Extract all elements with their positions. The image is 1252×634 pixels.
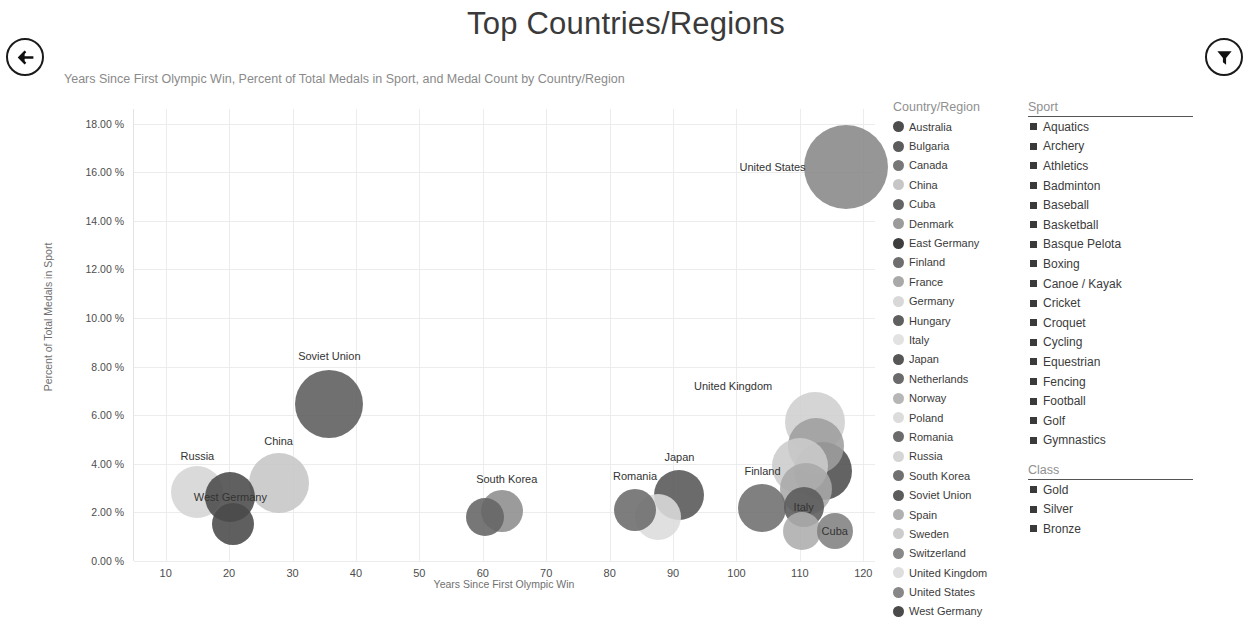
legend-swatch-square-icon — [1030, 398, 1037, 405]
legend-item-label: Bronze — [1043, 522, 1081, 536]
legend-item-country[interactable]: Italy — [893, 330, 1013, 349]
legend-item-country[interactable]: Hungary — [893, 311, 1013, 330]
legend-item-label: Boxing — [1043, 257, 1080, 271]
legend-item-country[interactable]: China — [893, 175, 1013, 194]
legend-swatch-square-icon — [1030, 417, 1037, 424]
legend-swatch-circle-icon — [893, 567, 904, 578]
back-button[interactable] — [6, 38, 44, 76]
legend-item-country[interactable]: Norway — [893, 388, 1013, 407]
legend-swatch-square-icon — [1030, 143, 1037, 150]
legend-item-sport[interactable]: Badminton — [1028, 176, 1193, 196]
legend-item-country[interactable]: United States — [893, 582, 1013, 601]
legend-item-label: Germany — [909, 295, 954, 307]
bubble-point[interactable] — [295, 370, 363, 438]
legend-item-sport[interactable]: Archery — [1028, 137, 1193, 157]
legend-item-country[interactable]: East Germany — [893, 233, 1013, 252]
legend-item-class[interactable]: Bronze — [1028, 519, 1193, 539]
legend-item-sport[interactable]: Cycling — [1028, 333, 1193, 353]
legend-item-class[interactable]: Silver — [1028, 500, 1193, 520]
legend-swatch-square-icon — [1030, 525, 1037, 532]
gridline-vertical — [356, 109, 357, 561]
legend-swatch-square-icon — [1030, 506, 1037, 513]
legend-item-country[interactable]: Canada — [893, 156, 1013, 175]
legend-swatch-circle-icon — [893, 179, 904, 190]
legend-item-country[interactable]: Finland — [893, 253, 1013, 272]
legend-item-sport[interactable]: Fencing — [1028, 372, 1193, 392]
legend-item-label: Romania — [909, 431, 953, 443]
legend-item-country[interactable]: West Germany — [893, 602, 1013, 621]
legend-item-label: Cuba — [909, 198, 935, 210]
bubble-point[interactable] — [614, 489, 656, 531]
legend-item-sport[interactable]: Baseball — [1028, 195, 1193, 215]
legend-item-sport[interactable]: Aquatics — [1028, 117, 1193, 137]
legend-item-country[interactable]: Japan — [893, 350, 1013, 369]
x-axis-tick-label: 80 — [604, 567, 616, 579]
legend-item-sport[interactable]: Cricket — [1028, 293, 1193, 313]
legend-swatch-circle-icon — [893, 509, 904, 520]
legend-item-country[interactable]: Romania — [893, 427, 1013, 446]
legend-class-items: GoldSilverBronze — [1028, 480, 1193, 539]
x-axis-tick-label: 90 — [667, 567, 679, 579]
legend-item-country[interactable]: Russia — [893, 447, 1013, 466]
legend-item-country[interactable]: South Korea — [893, 466, 1013, 485]
legend-item-class[interactable]: Gold — [1028, 480, 1193, 500]
filter-funnel-icon — [1215, 48, 1234, 67]
legend-item-country[interactable]: Australia — [893, 117, 1013, 136]
gridline-horizontal — [134, 172, 875, 173]
legend-swatch-circle-icon — [893, 276, 904, 287]
y-axis-tick-label: 2.00 % — [4, 506, 124, 518]
legend-item-label: Cricket — [1043, 296, 1080, 310]
legend-swatch-circle-icon — [893, 315, 904, 326]
legend-item-sport[interactable]: Golf — [1028, 411, 1193, 431]
bubble-point[interactable] — [783, 512, 821, 550]
gridline-vertical — [166, 109, 167, 561]
legend-item-label: Football — [1043, 394, 1086, 408]
legend-item-label: Netherlands — [909, 373, 968, 385]
bubble-point[interactable] — [249, 453, 309, 513]
legend-item-country[interactable]: Cuba — [893, 195, 1013, 214]
legend-item-country[interactable]: France — [893, 272, 1013, 291]
y-axis-tick-label: 0.00 % — [4, 555, 124, 567]
legend-swatch-circle-icon — [893, 296, 904, 307]
legend-item-sport[interactable]: Boxing — [1028, 254, 1193, 274]
legend-swatch-circle-icon — [893, 393, 904, 404]
bubble-point[interactable] — [212, 503, 254, 545]
legend-item-sport[interactable]: Canoe / Kayak — [1028, 274, 1193, 294]
bubble-point[interactable] — [466, 498, 504, 536]
y-axis-tick-label: 12.00 % — [4, 263, 124, 275]
legend-item-country[interactable]: Bulgaria — [893, 136, 1013, 155]
legend-item-sport[interactable]: Croquet — [1028, 313, 1193, 333]
legend-item-sport[interactable]: Gymnastics — [1028, 431, 1193, 451]
bubble-point[interactable] — [738, 484, 786, 532]
legend-item-country[interactable]: Germany — [893, 292, 1013, 311]
legend-sport-items: AquaticsArcheryAthleticsBadmintonBasebal… — [1028, 117, 1193, 457]
bubble-point[interactable] — [804, 125, 888, 209]
legend-item-country[interactable]: Sweden — [893, 524, 1013, 543]
legend-swatch-circle-icon — [893, 218, 904, 229]
legend-item-sport[interactable]: Football — [1028, 391, 1193, 411]
gridline-horizontal — [134, 561, 875, 562]
x-axis-tick-label: 60 — [477, 567, 489, 579]
legend-swatch-circle-icon — [893, 490, 904, 501]
legend-item-sport[interactable]: Basketball — [1028, 215, 1193, 235]
filter-button[interactable] — [1205, 38, 1243, 76]
legend-item-country[interactable]: Spain — [893, 505, 1013, 524]
legend-swatch-square-icon — [1030, 260, 1037, 267]
legend-item-country[interactable]: Poland — [893, 408, 1013, 427]
legend-item-country[interactable]: Denmark — [893, 214, 1013, 233]
legend-item-country[interactable]: Soviet Union — [893, 485, 1013, 504]
legend-item-sport[interactable]: Basque Pelota — [1028, 235, 1193, 255]
legend-item-sport[interactable]: Equestrian — [1028, 352, 1193, 372]
legend-item-label: Switzerland — [909, 547, 966, 559]
legend-item-label: Sweden — [909, 528, 949, 540]
legend-country-title: Country/Region — [893, 100, 1013, 117]
legend-swatch-circle-icon — [893, 354, 904, 365]
x-axis-tick-label: 100 — [727, 567, 745, 579]
legend-item-sport[interactable]: Athletics — [1028, 156, 1193, 176]
legend-item-country[interactable]: Netherlands — [893, 369, 1013, 388]
legend-item-label: Basque Pelota — [1043, 237, 1121, 251]
legend-item-country[interactable]: Switzerland — [893, 544, 1013, 563]
bubble-label: Soviet Union — [298, 350, 360, 362]
legend-item-country[interactable]: United Kingdom — [893, 563, 1013, 582]
bubble-point[interactable] — [817, 513, 853, 549]
